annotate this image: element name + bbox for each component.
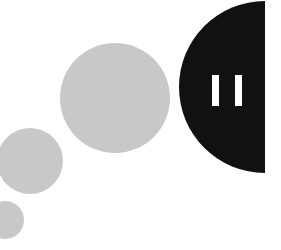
pause-bar-right [235,75,242,106]
dot-medium [0,128,63,194]
graphic-canvas [0,0,281,250]
pause-graphic-svg [0,0,281,250]
pause-bar-left [212,75,219,106]
dot-large [60,43,170,153]
